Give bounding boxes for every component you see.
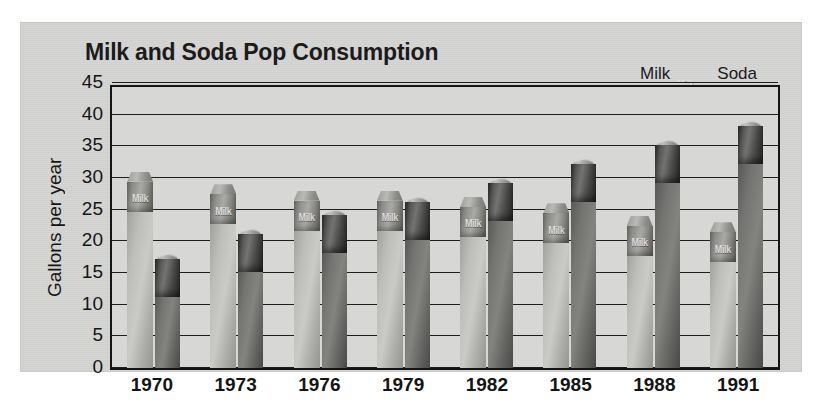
y-axis-tick-label: 30: [82, 166, 103, 188]
milk-carton-icon: [377, 191, 403, 231]
bar-column-soda: [488, 221, 513, 368]
bar-soda[interactable]: [488, 178, 513, 368]
y-axis-tick-label: 45: [82, 71, 103, 93]
bar-soda[interactable]: [238, 229, 263, 368]
y-axis-tick-label: 25: [82, 198, 103, 220]
carton-gable: [294, 191, 320, 201]
bar-column-soda: [571, 202, 596, 368]
milk-carton-icon: [543, 203, 569, 243]
bar-column-milk: [210, 224, 236, 368]
bar-soda[interactable]: [405, 197, 430, 368]
y-axis-tick-label: 15: [82, 261, 103, 283]
can-body: [571, 164, 596, 202]
bar-groups: [112, 87, 778, 368]
can-body: [488, 183, 513, 221]
bar-milk[interactable]: [543, 203, 569, 368]
bar-column-soda: [155, 297, 180, 368]
bar-group: [112, 87, 195, 368]
bar-milk[interactable]: [127, 172, 153, 368]
bar-soda[interactable]: [655, 140, 680, 368]
carton-body: [543, 213, 569, 243]
bar-milk[interactable]: [210, 184, 236, 368]
y-axis-tick-label: 0: [92, 356, 103, 378]
soda-can-icon: [655, 140, 680, 183]
can-body: [655, 145, 680, 183]
milk-carton-icon: [460, 197, 486, 237]
bar-column-milk: [460, 237, 486, 368]
bar-column-milk: [710, 262, 736, 368]
can-body: [322, 215, 347, 253]
milk-carton-icon: [210, 184, 236, 224]
bar-column-soda: [322, 253, 347, 368]
soda-can-icon: [738, 121, 763, 164]
milk-carton-icon: [294, 191, 320, 231]
chart-title: Milk and Soda Pop Consumption: [85, 39, 438, 66]
y-axis-tick-label: 5: [92, 324, 103, 346]
carton-body: [294, 201, 320, 231]
x-axis-tick-label: 1970: [110, 374, 194, 396]
bar-soda[interactable]: [322, 210, 347, 368]
bar-column-milk: [127, 212, 153, 368]
bar-group: [362, 87, 445, 368]
carton-body: [210, 194, 236, 224]
carton-body: [460, 207, 486, 237]
carton-gable: [127, 172, 153, 182]
y-axis-tick-label: 35: [82, 134, 103, 156]
y-axis-tick-label: 40: [82, 103, 103, 125]
bar-column-soda: [238, 272, 263, 368]
bar-column-soda: [738, 164, 763, 368]
y-axis-tick-label: 10: [82, 293, 103, 315]
soda-can-icon: [155, 254, 180, 297]
bar-milk[interactable]: [294, 191, 320, 368]
can-body: [738, 126, 763, 164]
milk-carton-icon: [127, 172, 153, 212]
carton-body: [710, 232, 736, 262]
carton-body: [627, 226, 653, 256]
bar-milk[interactable]: [627, 216, 653, 368]
soda-can-icon: [238, 229, 263, 272]
bar-column-milk: [294, 231, 320, 368]
soda-can-icon: [488, 178, 513, 221]
bar-soda[interactable]: [571, 159, 596, 368]
bar-milk[interactable]: [377, 191, 403, 368]
x-axis-tick-label: 1991: [696, 374, 780, 396]
x-axis-tick-label: 1982: [445, 374, 529, 396]
bar-column-milk: [543, 243, 569, 368]
soda-can-icon: [322, 210, 347, 253]
carton-gable: [460, 197, 486, 207]
x-axis-tick-label: 1988: [613, 374, 697, 396]
carton-body: [377, 201, 403, 231]
bar-group: [195, 87, 278, 368]
milk-carton-icon: [627, 216, 653, 256]
bar-milk[interactable]: [460, 197, 486, 368]
carton-gable: [543, 203, 569, 213]
x-axis-tick-label: 1973: [194, 374, 278, 396]
can-body: [155, 259, 180, 297]
x-axis-tick-labels: 19701973197619791982198519881991: [110, 374, 780, 396]
bar-milk[interactable]: [710, 222, 736, 368]
bar-soda[interactable]: [738, 121, 763, 368]
carton-gable: [710, 222, 736, 232]
bar-group: [445, 87, 528, 368]
y-axis-tick-label: 20: [82, 229, 103, 251]
can-body: [238, 234, 263, 272]
carton-body: [127, 182, 153, 212]
x-axis-tick-label: 1976: [278, 374, 362, 396]
bar-column-soda: [655, 183, 680, 368]
bar-column-milk: [377, 231, 403, 368]
milk-carton-icon: [710, 222, 736, 262]
plot-area: 454035302520151050: [110, 85, 780, 370]
carton-gable: [377, 191, 403, 201]
gridline: 45: [112, 82, 778, 83]
bar-group: [695, 87, 778, 368]
can-body: [405, 202, 430, 240]
soda-can-icon: [405, 197, 430, 240]
bar-group: [528, 87, 611, 368]
y-axis-label: Gallons per year: [44, 85, 66, 370]
bar-group: [279, 87, 362, 368]
x-axis-tick-label: 1985: [529, 374, 613, 396]
bar-group: [612, 87, 695, 368]
bar-column-milk: [627, 256, 653, 368]
x-axis-tick-label: 1979: [361, 374, 445, 396]
bar-soda[interactable]: [155, 254, 180, 368]
